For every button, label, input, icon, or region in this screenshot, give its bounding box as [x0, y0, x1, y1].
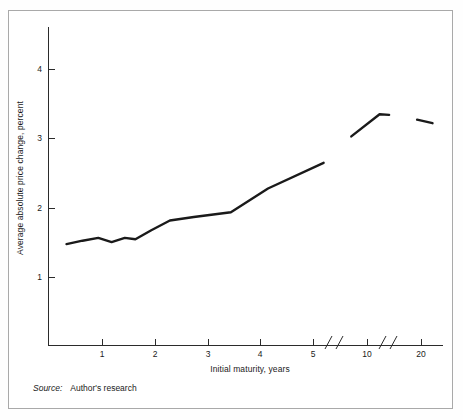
x-tick-label-2: 2 — [145, 349, 165, 359]
x-tick-label-5: 5 — [303, 349, 323, 359]
x-tick-label-1: 1 — [92, 349, 112, 359]
y-tick-label-3: 3 — [24, 133, 42, 143]
data-line-mid-maturity — [351, 114, 389, 136]
x-tick-label-4: 4 — [250, 349, 270, 359]
y-axis-title: Average absolute price change, percent — [15, 88, 25, 268]
x-tick-label-10: 10 — [357, 349, 377, 359]
figure-container: 4 3 2 1 1 2 3 4 5 10 20 Average absolute… — [0, 0, 463, 420]
data-line-long-maturity — [417, 120, 432, 124]
source-text: Author's research — [62, 383, 136, 393]
y-tick-label-2: 2 — [24, 203, 42, 213]
source-label: Source: — [33, 383, 62, 393]
axis-break-after-5-icon — [325, 336, 343, 349]
x-tick-label-3: 3 — [198, 349, 218, 359]
source-note: Source:Author's research — [33, 383, 137, 393]
y-tick-label-1: 1 — [24, 272, 42, 282]
x-tick-label-20: 20 — [411, 349, 431, 359]
chart-plot-area — [0, 0, 463, 420]
x-tick-marks — [103, 339, 422, 346]
x-axis-title: Initial maturity, years — [150, 364, 350, 374]
y-tick-label-4: 4 — [24, 64, 42, 74]
axis-break-after-10-icon — [379, 336, 397, 349]
data-line-short-maturity — [67, 163, 324, 244]
y-tick-marks — [49, 70, 56, 278]
